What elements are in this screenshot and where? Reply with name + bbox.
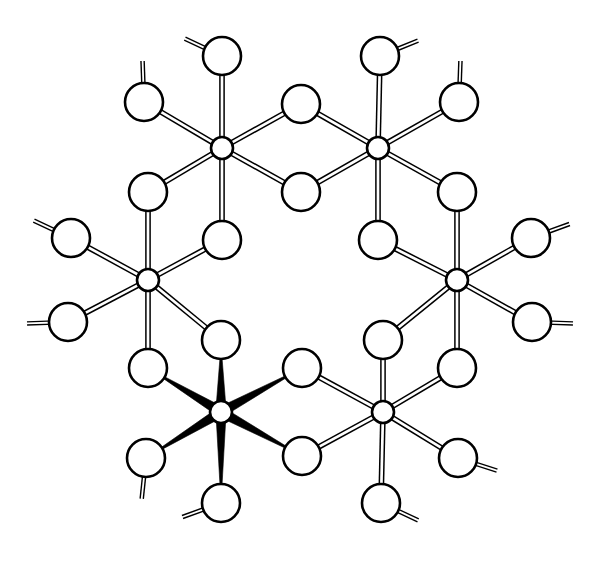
bridge-M1-M3-outer [129, 173, 167, 211]
metal-center-left [137, 269, 159, 291]
terminal-m6-low-right [439, 439, 477, 477]
terminal-m5-down [202, 484, 240, 522]
terminal-m2-up [361, 37, 399, 75]
terminal-m3-up-left [52, 219, 90, 257]
terminal-m4-right [513, 303, 551, 341]
terminal-m2-up-right [440, 83, 478, 121]
bridge-M4-M6-inner [364, 321, 402, 359]
metal-center-bottom-right [372, 401, 394, 423]
bridge-M1-M3-inner [203, 221, 241, 259]
cluster-diagram [0, 0, 599, 568]
bridge-M4-M6-outer [438, 349, 476, 387]
bridge-M3-M5-outer [129, 349, 167, 387]
terminal-m5-low-left [127, 439, 165, 477]
terminal-m3-left [49, 303, 87, 341]
terminal-m1-up [203, 37, 241, 75]
bridge-M3-M5-inner [202, 321, 240, 359]
terminal-m1-up-left [125, 83, 163, 121]
terminal-m4-up-right [512, 219, 550, 257]
metal-center-top-right [367, 137, 389, 159]
bridge-M2-M4-outer [438, 173, 476, 211]
bridge-M5-M6-lower [283, 437, 321, 475]
bridge-M2-M4-inner [359, 221, 397, 259]
terminal-m6-down [362, 484, 400, 522]
bridge-M1-M2-lower [282, 173, 320, 211]
metal-center-bottom-left [210, 401, 232, 423]
metal-center-top-left [211, 137, 233, 159]
metal-center-right [446, 269, 468, 291]
bridge-M5-M6-upper [283, 349, 321, 387]
bridge-M1-M2-upper [282, 85, 320, 123]
figure-root [0, 0, 599, 568]
